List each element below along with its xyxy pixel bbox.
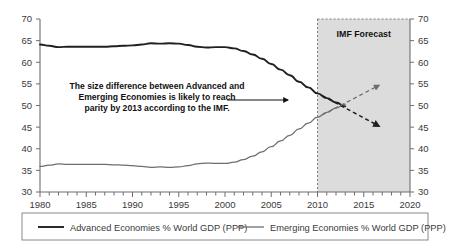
y-tick-label: 60 [418, 57, 429, 68]
x-axis-ticks: 198019851990199520002005201020152020 [29, 192, 420, 210]
x-tick-label: 1980 [29, 199, 50, 210]
gdp-share-line-chart: IMF Forecast 303540455055606570 30354045… [0, 0, 450, 246]
y-tick-label: 50 [21, 100, 32, 111]
y-tick-label: 35 [21, 165, 32, 176]
chart-annotation: The size difference between Advanced and… [70, 81, 288, 113]
legend-label-emerging: Emerging Economies % World GDP (PPP) [270, 223, 446, 233]
y-tick-label: 35 [418, 165, 429, 176]
y-tick-label: 45 [21, 122, 32, 133]
y-tick-label: 70 [418, 13, 429, 24]
y-tick-label: 55 [21, 78, 32, 89]
y-tick-label: 40 [418, 143, 429, 154]
x-tick-label: 2000 [214, 199, 235, 210]
y-tick-label: 60 [21, 57, 32, 68]
x-tick-label: 2010 [307, 199, 328, 210]
y-axis-left-ticks: 303540455055606570 [21, 13, 40, 197]
annotation-line-2: Emerging Economies is likely to reach [78, 92, 235, 102]
chart-legend: Advanced Economies % World GDP (PPP) Eme… [22, 213, 446, 240]
y-tick-label: 50 [418, 100, 429, 111]
x-tick-label: 1985 [76, 199, 97, 210]
chart-container: IMF Forecast 303540455055606570 30354045… [0, 0, 450, 246]
y-tick-label: 45 [418, 122, 429, 133]
y-tick-label: 40 [21, 143, 32, 154]
y-tick-label: 65 [418, 35, 429, 46]
legend-label-advanced: Advanced Economies % World GDP (PPP) [70, 223, 247, 233]
y-tick-label: 30 [418, 186, 429, 197]
line-emerging-economies [40, 104, 345, 167]
x-tick-label: 2005 [261, 199, 282, 210]
y-tick-label: 30 [21, 186, 32, 197]
x-tick-label: 1990 [122, 199, 143, 210]
x-tick-label: 1995 [168, 199, 189, 210]
y-tick-label: 55 [418, 78, 429, 89]
annotation-line-3: parity by 2013 according to the IMF. [84, 103, 229, 113]
imf-forecast-label: IMF Forecast [337, 29, 391, 39]
annotation-line-1: The size difference between Advanced and [70, 81, 245, 91]
y-axis-right-ticks: 303540455055606570 [410, 13, 429, 197]
x-tick-label: 2015 [353, 199, 374, 210]
y-tick-label: 70 [21, 13, 32, 24]
y-tick-label: 65 [21, 35, 32, 46]
x-tick-label: 2020 [399, 199, 420, 210]
imf-forecast-region [318, 19, 411, 192]
